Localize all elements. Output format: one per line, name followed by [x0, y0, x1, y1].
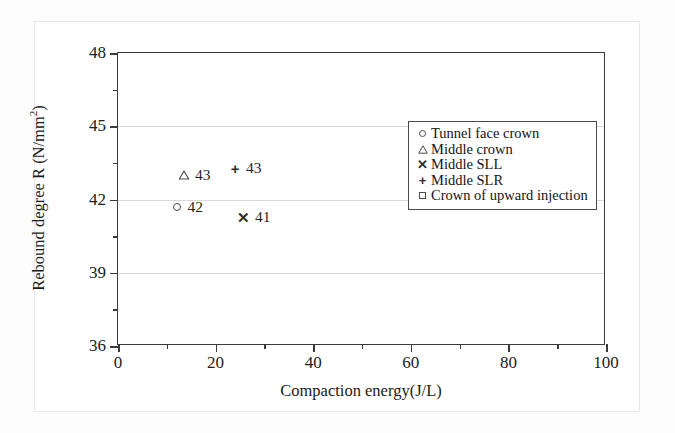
- marker-circle-icon: [419, 130, 426, 137]
- legend-label: Middle crown: [431, 141, 513, 158]
- data-point-label: 43: [195, 166, 211, 184]
- marker-plus-icon: +: [419, 174, 427, 187]
- x-tick-label-80: 80: [500, 353, 517, 373]
- x-tick-80: [508, 344, 510, 352]
- y-tick-label-48: 48: [89, 43, 106, 63]
- y-axis-title-superscript: 2: [27, 111, 39, 117]
- y-tick-39: [110, 273, 118, 275]
- y-minor-tick: [113, 163, 118, 164]
- marker-x-cross-icon: ✕: [237, 209, 250, 224]
- x-tick-label-20: 20: [207, 353, 224, 373]
- y-minor-tick: [113, 90, 118, 91]
- data-point-label: 43: [246, 159, 262, 177]
- x-tick-label-60: 60: [402, 353, 419, 373]
- marker-x-cross-icon: ✕: [417, 158, 428, 171]
- marker-plus-icon: +: [231, 160, 240, 175]
- data-point-label: 42: [188, 198, 204, 216]
- y-tick-label-39: 39: [89, 263, 106, 283]
- x-tick-100: [606, 344, 608, 352]
- y-tick-42: [110, 200, 118, 202]
- legend-item-0: Tunnel face crown: [416, 126, 590, 142]
- plot-area: 3639424548 020406080100 4243✕41+4344 Tun…: [117, 52, 605, 345]
- x-tick-label-100: 100: [593, 353, 619, 373]
- legend-item-2: ✕Middle SLL: [416, 157, 590, 173]
- y-tick-label-36: 36: [89, 336, 106, 356]
- x-minor-tick: [362, 344, 363, 349]
- marker-square-icon: [419, 192, 426, 199]
- x-tick-0: [118, 344, 120, 352]
- legend-swatch: [416, 189, 429, 202]
- y-axis-title: Rebound degree R (N/mm2): [27, 105, 49, 291]
- legend-swatch: [416, 127, 429, 140]
- marker-triangle-icon: [178, 167, 189, 183]
- marker-circle-icon: [173, 203, 181, 211]
- y-tick-label-42: 42: [89, 190, 106, 210]
- legend-label: Tunnel face crown: [431, 125, 539, 142]
- legend-item-3: +Middle SLR: [416, 173, 590, 189]
- data-point-label: 41: [255, 208, 271, 226]
- y-minor-tick: [113, 309, 118, 310]
- legend-swatch: ✕: [416, 158, 429, 171]
- x-tick-20: [216, 344, 218, 352]
- y-tick-45: [110, 126, 118, 128]
- x-minor-tick: [264, 344, 265, 349]
- legend-swatch: [416, 143, 429, 156]
- y-axis-title-tail: ): [29, 105, 48, 111]
- x-minor-tick: [167, 344, 168, 349]
- legend-item-1: Middle crown: [416, 142, 590, 158]
- x-axis-title: Compaction energy(J/L): [117, 381, 605, 401]
- gridline-y-39: [118, 273, 604, 274]
- legend-label: Crown of upward injection: [431, 187, 588, 204]
- x-tick-label-40: 40: [305, 353, 322, 373]
- legend: Tunnel face crownMiddle crown✕Middle SLL…: [408, 121, 597, 210]
- y-tick-36: [110, 346, 118, 348]
- y-minor-tick: [113, 236, 118, 237]
- legend-swatch: +: [416, 174, 429, 187]
- x-tick-40: [313, 344, 315, 352]
- legend-item-4: Crown of upward injection: [416, 188, 590, 204]
- legend-label: Middle SLR: [431, 172, 503, 189]
- x-minor-tick: [460, 344, 461, 349]
- marker-triangle-icon: [418, 145, 428, 154]
- y-tick-label-45: 45: [89, 116, 106, 136]
- y-tick-48: [110, 53, 118, 55]
- x-minor-tick: [557, 344, 558, 349]
- x-tick-label-0: 0: [114, 353, 123, 373]
- figure-root: Rebound degree R (N/mm2) Compaction ener…: [0, 0, 675, 433]
- y-axis-title-base: Rebound degree R (N/mm: [29, 116, 48, 291]
- x-tick-60: [411, 344, 413, 352]
- legend-label: Middle SLL: [431, 156, 502, 173]
